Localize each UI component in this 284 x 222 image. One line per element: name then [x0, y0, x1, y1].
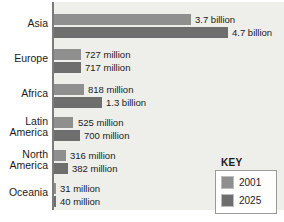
bar-asia-2025: [54, 27, 228, 38]
category-label-line1: Europe: [14, 52, 48, 64]
category-label-north-america: North America: [9, 149, 48, 171]
bar-oceania-2001: [54, 183, 56, 194]
category-label-line1: Oceania: [9, 186, 48, 198]
bar-asia-2001: [54, 14, 191, 25]
value-label-north-america-2025: 382 million: [72, 163, 117, 174]
category-label-line2: America: [9, 127, 48, 138]
category-label-line2: America: [9, 160, 48, 171]
category-label-asia: Asia: [28, 18, 48, 29]
bar-africa-2001: [54, 84, 84, 95]
bar-latin-america-2001: [54, 117, 73, 128]
value-label-africa-2025: 1.3 billion: [106, 97, 146, 108]
category-label-oceania: Oceania: [9, 187, 48, 198]
legend-box: 2001 2025: [215, 170, 277, 214]
category-label-line1: Asia: [28, 17, 48, 29]
legend-title: KEY: [221, 157, 242, 168]
bar-africa-2025: [54, 97, 102, 108]
value-label-oceania-2001: 31 million: [60, 183, 100, 194]
bar-latin-america-2025: [54, 130, 80, 141]
category-label-europe: Europe: [14, 53, 48, 64]
value-label-europe-2001: 727 million: [85, 49, 130, 60]
value-label-asia-2025: 4.7 billion: [232, 27, 272, 38]
bar-europe-2001: [54, 49, 81, 60]
legend-entry-2025: 2025: [221, 194, 261, 207]
legend-label-2001: 2001: [239, 177, 261, 188]
value-label-north-america-2001: 316 million: [70, 150, 115, 161]
bar-north-america-2001: [54, 150, 66, 161]
bar-north-america-2025: [54, 163, 68, 174]
legend-swatch-2001-icon: [221, 176, 234, 189]
category-label-africa: Africa: [21, 88, 48, 99]
value-label-oceania-2025: 40 million: [60, 196, 100, 207]
bar-europe-2025: [54, 62, 81, 73]
legend-swatch-2025-icon: [221, 194, 234, 207]
category-label-line1: Africa: [21, 87, 48, 99]
category-label-latin-america: Latin America: [9, 116, 48, 138]
population-bar-chart: Asia 3.7 billion 4.7 billion Europe 727 …: [0, 0, 284, 222]
legend-entry-2001: 2001: [221, 176, 261, 189]
value-label-latin-america-2025: 700 million: [84, 130, 129, 141]
value-label-europe-2025: 717 million: [85, 62, 130, 73]
value-label-latin-america-2001: 525 million: [78, 117, 123, 128]
value-label-asia-2001: 3.7 billion: [195, 14, 235, 25]
value-label-africa-2001: 818 million: [88, 84, 133, 95]
bar-oceania-2025: [54, 196, 56, 207]
legend-label-2025: 2025: [239, 195, 261, 206]
